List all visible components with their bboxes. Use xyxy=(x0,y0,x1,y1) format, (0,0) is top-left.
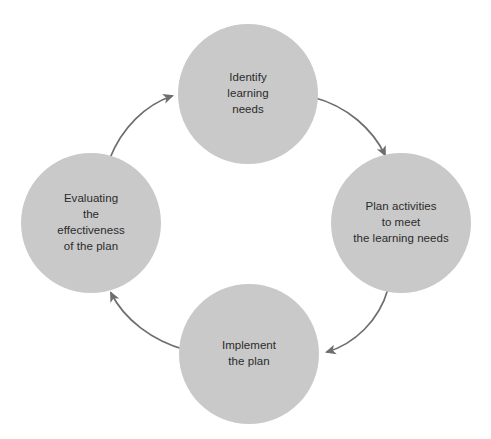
arrow-evaluate-to-identify xyxy=(110,96,172,158)
cycle-diagram: Identify learning needs Plan activities … xyxy=(0,0,491,439)
node-evaluate: Evaluating the effectiveness of the plan xyxy=(21,153,161,293)
node-implement-label: Implement the plan xyxy=(214,338,284,370)
arrow-plan-to-implement xyxy=(327,289,388,352)
node-plan: Plan activities to meet the learning nee… xyxy=(331,153,471,293)
node-identify-label: Identify learning needs xyxy=(219,70,276,118)
node-implement: Implement the plan xyxy=(179,284,319,424)
arrow-implement-to-evaluate xyxy=(111,293,186,350)
node-evaluate-label: Evaluating the effectiveness of the plan xyxy=(49,191,133,254)
node-plan-label: Plan activities to meet the learning nee… xyxy=(345,199,457,247)
node-identify: Identify learning needs xyxy=(178,24,318,164)
arrow-identify-to-plan xyxy=(312,97,385,155)
